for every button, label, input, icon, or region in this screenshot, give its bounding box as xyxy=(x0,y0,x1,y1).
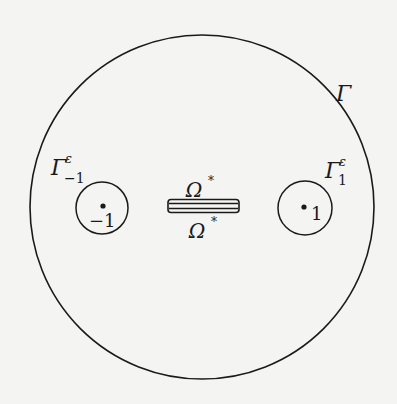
right-hole-label: Γ ε 1 xyxy=(324,154,347,188)
slot-crack xyxy=(168,200,239,213)
slot-bottom-label: Ω * xyxy=(188,215,217,243)
left-point-dot xyxy=(100,203,105,208)
omega-star-top-sup: * xyxy=(208,174,214,188)
right-hole-sub: 1 xyxy=(338,172,347,188)
left-hole-sub: −1 xyxy=(64,170,85,186)
right-hole-sup: ε xyxy=(339,154,346,169)
diagram-svg: Γ Γ ε −1 −1 Γ ε 1 1 Ω * Ω * xyxy=(0,0,397,404)
omega-star-top: Ω xyxy=(185,178,203,202)
left-hole-sup: ε xyxy=(65,151,72,166)
domain-diagram: Γ Γ ε −1 −1 Γ ε 1 1 Ω * Ω * xyxy=(0,0,397,404)
omega-star-bottom-sup: * xyxy=(211,215,217,229)
omega-star-bottom: Ω xyxy=(188,219,206,243)
outer-boundary-label: Γ xyxy=(335,81,352,106)
left-point-label: −1 xyxy=(89,210,116,231)
left-hole-label: Γ ε −1 xyxy=(50,151,85,186)
slot-top-label: Ω * xyxy=(185,174,214,202)
right-point-dot xyxy=(301,204,306,209)
right-point-label: 1 xyxy=(311,203,322,224)
